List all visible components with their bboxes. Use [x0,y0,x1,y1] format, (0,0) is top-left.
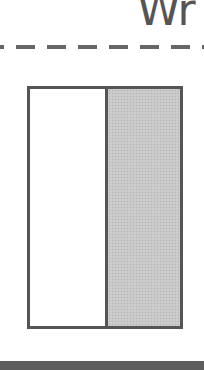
dashed-divider [0,45,204,49]
split-rectangle-figure [27,86,183,329]
left-panel-white [30,89,108,326]
heading-text-fragment: Wr [137,0,195,32]
bottom-bar [0,361,204,370]
right-panel-shaded [108,89,180,326]
